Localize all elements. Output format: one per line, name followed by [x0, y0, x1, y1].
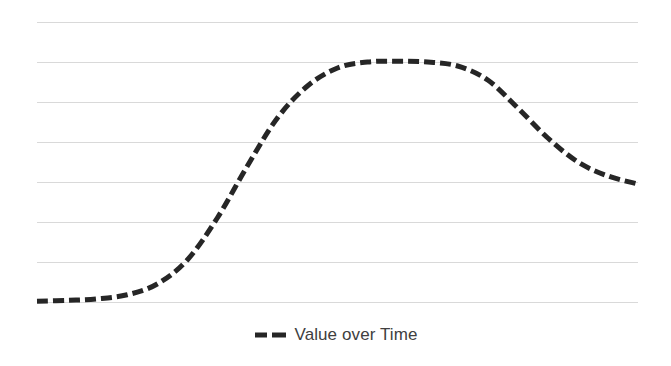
series-group	[37, 61, 638, 301]
chart-svg	[0, 0, 671, 320]
plot-area	[0, 0, 671, 320]
dashed-line-marker-icon	[253, 327, 291, 343]
series-line-0	[37, 61, 638, 301]
gridlines-group	[37, 23, 638, 303]
chart-container: Value over Time	[0, 0, 671, 366]
chart-legend: Value over Time	[0, 318, 671, 352]
legend-item-label: Value over Time	[294, 325, 417, 345]
legend-item-value-over-time[interactable]: Value over Time	[253, 325, 417, 345]
